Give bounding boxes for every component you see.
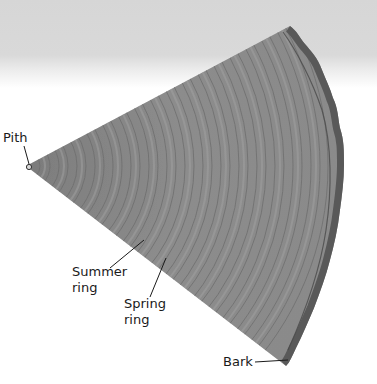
bark-label: Bark [223,354,253,370]
pith-callout-line [24,146,29,164]
summer-ring-label-line2: ring [72,280,127,296]
tree-wedge-illustration [0,0,377,384]
spring-ring-label-line2: ring [124,312,166,328]
pith-label: Pith [3,130,28,146]
pith-label-text: Pith [3,130,28,145]
spring-ring-label: Spring ring [124,296,166,328]
summer-ring-label-line1: Summer [72,264,127,280]
summer-ring-label: Summer ring [72,264,127,296]
pith-dot [26,164,31,169]
spring-ring-label-line1: Spring [124,296,166,312]
wood-wedge [0,0,377,384]
bark-label-text: Bark [223,354,253,369]
